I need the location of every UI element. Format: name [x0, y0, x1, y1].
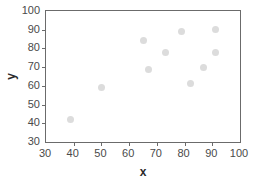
y-axis-tick	[42, 86, 46, 87]
data-point	[98, 84, 105, 91]
data-point	[212, 26, 219, 33]
y-axis-tick	[42, 123, 46, 124]
x-axis-tick-label: 100	[219, 148, 254, 159]
y-axis-tick-label: 100	[0, 5, 40, 16]
y-axis-tick	[42, 67, 46, 68]
y-axis-tick	[42, 48, 46, 49]
data-point	[140, 37, 147, 44]
data-point	[145, 66, 152, 73]
y-axis-title: y	[5, 62, 18, 92]
x-axis-tick	[157, 142, 158, 146]
x-axis-tick-labels: 30405060708090100	[45, 148, 241, 162]
data-point	[178, 28, 185, 35]
data-point	[200, 64, 207, 71]
y-axis-tick-label: 90	[0, 23, 40, 34]
x-axis-title: x	[45, 166, 241, 179]
y-axis-tick-label: 40	[0, 117, 40, 128]
y-axis-tick	[42, 30, 46, 31]
x-axis-tick	[129, 142, 130, 146]
y-axis-tick-label: 50	[0, 98, 40, 109]
x-axis-tick	[212, 142, 213, 146]
y-axis-tick-label: 80	[0, 42, 40, 53]
data-point	[212, 49, 219, 56]
data-point	[162, 49, 169, 56]
data-point	[67, 116, 74, 123]
y-axis-tick-label: 30	[0, 136, 40, 147]
y-axis-tick	[42, 105, 46, 106]
x-axis-tick	[74, 142, 75, 146]
scatter-plot-figure: 30405060708090100 y 30405060708090100 x	[0, 0, 254, 191]
x-axis-tick	[101, 142, 102, 146]
plot-area	[45, 10, 241, 143]
data-point	[187, 80, 194, 87]
x-axis-tick	[185, 142, 186, 146]
